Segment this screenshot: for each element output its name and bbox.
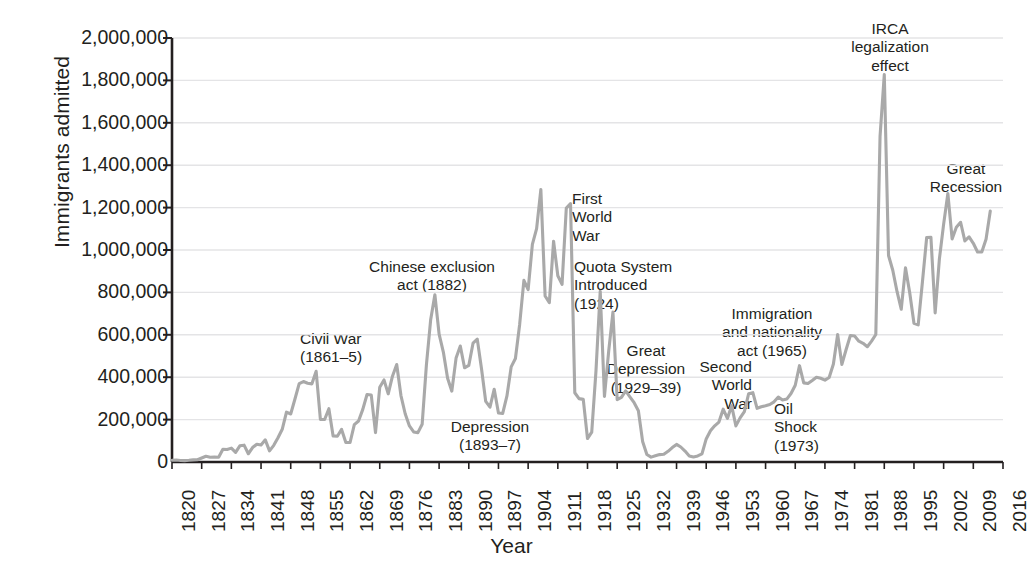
data-series-immigrants-admitted	[172, 75, 990, 461]
